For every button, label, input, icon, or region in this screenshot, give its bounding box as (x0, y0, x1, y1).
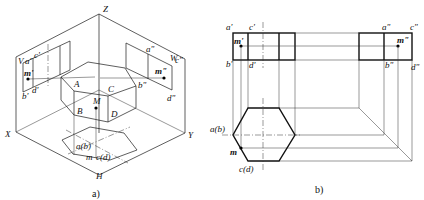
projection-box (16, 14, 185, 175)
point-m-b (239, 146, 242, 149)
b-side-label-c: c" (410, 22, 418, 32)
b-top-label-m: m (230, 147, 237, 157)
vertex-a-label: A (73, 79, 80, 89)
b-front-label-b: b' (226, 59, 234, 69)
b-side-label-d: d" (411, 62, 420, 72)
w-label-b: b" (138, 80, 147, 90)
b-front-label-m: m' (234, 36, 244, 46)
w-label-m: m" (155, 66, 167, 76)
v-label-d: d' (32, 85, 40, 95)
b-front-label-d: d' (249, 60, 257, 70)
b-front-label-c: c' (249, 22, 256, 32)
plane-h-label: H (95, 171, 103, 181)
b-top-label-ab: a(b) (210, 124, 225, 134)
figure-b-orthographic: a' c' m' b' d' a" c" m" b" d" a(b) m c(d… (210, 22, 420, 196)
b-side-label-b: b" (385, 60, 394, 70)
v-label-a: a' (25, 56, 33, 66)
front-view (233, 22, 398, 68)
projection-figure: Z X Y H V a' c' m' b' d' W c" a" m" b" d… (0, 0, 424, 200)
b-front-label-a: a' (226, 22, 234, 32)
point-M (94, 106, 97, 109)
h-label-ab: a(b) (76, 141, 91, 151)
b-side-label-m: m" (397, 35, 409, 45)
axis-z-label: Z (103, 4, 109, 14)
vertex-b-label: B (77, 106, 83, 116)
figure-a-pictorial: Z X Y H V a' c' m' b' d' W c" a" m" b" d… (4, 4, 194, 200)
caption-b: b) (315, 184, 323, 196)
b-top-label-cd: c(d) (239, 164, 254, 174)
axis-y-label: Y (188, 130, 194, 140)
w-label-a: a" (146, 44, 155, 54)
h-label-m: m (86, 152, 93, 162)
w-label-d: d" (167, 93, 176, 103)
plane-v-label: V (18, 56, 25, 66)
top-view (222, 98, 300, 170)
axis-x-label: X (4, 129, 11, 139)
vertex-c-label: C (108, 84, 115, 94)
hexagonal-prism (61, 62, 136, 158)
vertex-m-label: M (92, 96, 101, 106)
h-label-cd: c(d) (96, 152, 111, 162)
caption-a: a) (92, 188, 100, 200)
v-label-b: b' (22, 91, 30, 101)
v-label-m: m' (24, 68, 34, 78)
w-label-c: c" (175, 55, 183, 65)
b-side-label-a: a" (382, 22, 391, 32)
point-m-double-prime (162, 76, 165, 79)
vertex-d-label: D (110, 109, 118, 119)
